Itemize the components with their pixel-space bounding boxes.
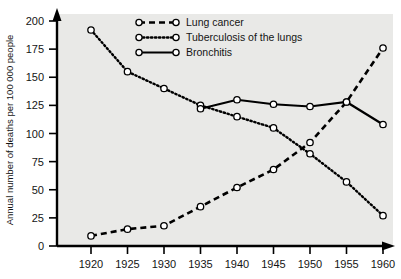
data-point-marker bbox=[380, 121, 386, 127]
data-point-marker bbox=[124, 68, 130, 74]
y-tick-label: 100 bbox=[26, 128, 44, 140]
data-point-marker bbox=[307, 103, 313, 109]
x-tick-label: 1935 bbox=[188, 258, 212, 270]
data-point-marker bbox=[307, 151, 313, 157]
data-point-marker bbox=[270, 166, 276, 172]
legend-marker bbox=[136, 19, 142, 25]
y-tick-label: 125 bbox=[26, 99, 44, 111]
x-tick-label: 1955 bbox=[334, 258, 358, 270]
data-point-marker bbox=[234, 97, 240, 103]
line-chart: 0 25 50 75 100 125 150 175 200 Annual nu… bbox=[0, 0, 401, 279]
x-tick-label: 1940 bbox=[225, 258, 249, 270]
data-point-marker bbox=[124, 226, 130, 232]
y-tick-label: 0 bbox=[38, 240, 44, 252]
legend-label-lung-cancer: Lung cancer bbox=[186, 16, 244, 28]
data-point-marker bbox=[234, 184, 240, 190]
y-axis-title: Annual number of deaths per 100 000 peop… bbox=[4, 35, 15, 226]
y-tick-label: 75 bbox=[32, 156, 44, 168]
data-point-marker bbox=[88, 233, 94, 239]
x-axis-tick-labels: 1920 1925 1930 1935 1940 1945 1950 1955 … bbox=[79, 258, 395, 270]
y-tick-label: 175 bbox=[26, 43, 44, 55]
data-point-marker bbox=[234, 113, 240, 119]
data-point-marker bbox=[161, 223, 167, 229]
y-tick-label: 50 bbox=[32, 184, 44, 196]
data-point-marker bbox=[343, 99, 349, 105]
x-tick-label: 1960 bbox=[371, 258, 395, 270]
data-point-marker bbox=[88, 27, 94, 33]
data-point-marker bbox=[307, 139, 313, 145]
legend-marker bbox=[136, 34, 142, 40]
data-point-marker bbox=[270, 101, 276, 107]
x-tick-label: 1945 bbox=[261, 258, 285, 270]
chart-canvas: 0 25 50 75 100 125 150 175 200 Annual nu… bbox=[0, 0, 401, 279]
x-tick-label: 1925 bbox=[115, 258, 139, 270]
legend-marker bbox=[173, 49, 179, 55]
data-point-marker bbox=[197, 106, 203, 112]
data-point-marker bbox=[380, 212, 386, 218]
legend-label-tuberculosis: Tuberculosis of the lungs bbox=[186, 31, 302, 43]
y-tick-label: 200 bbox=[26, 15, 44, 27]
x-tick-label: 1930 bbox=[152, 258, 176, 270]
legend-marker bbox=[173, 34, 179, 40]
x-tick-label: 1920 bbox=[79, 258, 103, 270]
y-tick-label: 25 bbox=[32, 212, 44, 224]
legend-label-bronchitis: Bronchitis bbox=[186, 46, 232, 58]
data-point-marker bbox=[343, 179, 349, 185]
legend-marker bbox=[136, 49, 142, 55]
data-point-marker bbox=[270, 125, 276, 131]
data-point-marker bbox=[197, 203, 203, 209]
y-tick-label: 150 bbox=[26, 71, 44, 83]
y-axis-tick-labels: 0 25 50 75 100 125 150 175 200 bbox=[26, 15, 44, 252]
x-tick-label: 1950 bbox=[298, 258, 322, 270]
legend-marker bbox=[173, 19, 179, 25]
data-point-marker bbox=[161, 85, 167, 91]
data-point-marker bbox=[380, 45, 386, 51]
